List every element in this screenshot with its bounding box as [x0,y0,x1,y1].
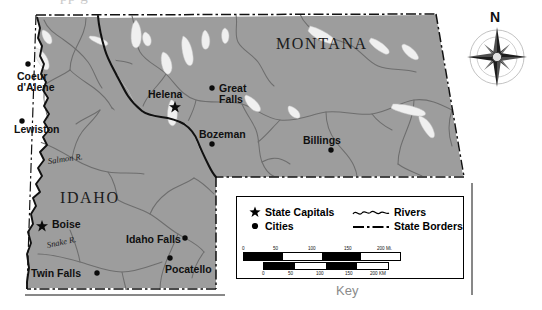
scale-miles-tick-100: 100 [308,246,316,251]
compass-north-label: N [490,10,500,24]
legend-wavy-line-icon [352,208,390,218]
scale-miles-tick-150: 150 [344,246,352,251]
city-label-lewiston: Lewiston [14,124,60,135]
map-legend: State Capitals Cities Rivers State Borde… [236,196,464,279]
scale-km-tick-100: 100 [316,271,324,276]
city-marker-pocatello [167,255,172,260]
scale-km-seg-1 [264,263,295,269]
key-caption: Key [336,283,358,298]
legend-label-rivers: Rivers [394,206,426,218]
legend-dot-icon [250,221,260,231]
state-label-idaho: IDAHO [60,190,120,206]
scale-km-tick-0: 0 [262,271,265,276]
legend-label-state-capitals: State Capitals [265,206,334,218]
scale-km-tick-150: 150 [345,271,353,276]
city-label-bozeman: Bozeman [199,129,246,140]
city-marker-billings [328,147,333,152]
city-marker-coeur-dalene [25,61,30,66]
legend-dashdot-line-icon [352,224,390,230]
scale-miles-bar [243,252,401,261]
legend-label-state-borders: State Borders [394,220,463,232]
compass-rose [467,27,527,87]
capital-label-boise: Boise [52,219,81,230]
map-figure: pp g [0,0,542,310]
city-marker-bozeman [209,141,214,146]
scale-miles-tick-50: 50 [273,246,278,251]
legend-star-icon [249,206,261,218]
city-marker-great-falls [209,85,214,90]
scale-km-bar [263,262,389,270]
scale-miles-unit: 200 Mi. [377,246,392,251]
city-label-coeur-dalene: Coeur d'Alene [17,71,55,92]
city-label-pocatello: Pocatello [165,264,212,275]
city-marker-twin-falls [94,270,99,275]
legend-label-cities: Cities [265,220,294,232]
capital-label-helena: Helena [148,89,182,100]
city-label-coeur-dalene-line2: d'Alene [17,81,55,93]
scale-miles-seg-3 [322,253,361,260]
city-label-billings: Billings [303,135,341,146]
scale-miles-seg-1 [244,253,283,260]
city-label-twin-falls: Twin Falls [31,268,81,279]
scale-km-seg-3 [326,263,357,269]
city-label-great-falls: Great Falls [219,83,246,104]
city-marker-idaho-falls [182,235,187,240]
scale-km-unit: 200 KM [370,271,386,276]
scale-miles-tick-0: 0 [242,246,245,251]
state-label-montana: MONTANA [276,36,368,52]
scale-km-tick-50: 50 [288,271,293,276]
city-label-great-falls-line2: Falls [219,93,243,105]
city-label-idaho-falls: Idaho Falls [126,234,181,245]
